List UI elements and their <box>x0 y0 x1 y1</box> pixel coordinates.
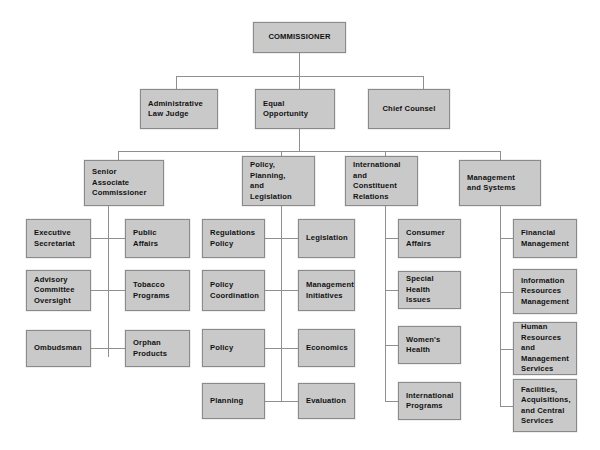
node-label: Equal Opportunity <box>263 99 331 120</box>
connector-group1-stub-right-1 <box>108 290 125 291</box>
node-label: Economics <box>306 343 351 354</box>
node-label: Management and Systems <box>467 173 537 194</box>
node-executive-secretariat[interactable]: Executive Secretariat <box>26 219 91 258</box>
connector-group3-stub-2 <box>385 345 398 346</box>
node-human-resources-and-management-services[interactable]: Human Resources and Management Services <box>513 322 577 375</box>
node-public-affairs[interactable]: Public Affairs <box>125 219 190 258</box>
node-label: Administrative Law Judge <box>148 99 214 120</box>
node-label: Policy <box>210 343 261 354</box>
connector-group1-stub-left-2 <box>91 348 109 349</box>
node-evaluation[interactable]: Evaluation <box>298 383 355 419</box>
node-international-programs[interactable]: International Programs <box>398 382 461 420</box>
node-label: Legislation <box>306 233 351 244</box>
node-label: Human Resources and Management Services <box>521 322 573 375</box>
node-consumer-affairs[interactable]: Consumer Affairs <box>398 219 461 258</box>
connector-group4-stub-3 <box>500 406 513 407</box>
connector-group4-spine <box>500 205 501 406</box>
node-label: Women's Health <box>406 335 457 356</box>
node-label: Public Affairs <box>133 228 186 249</box>
node-legislation[interactable]: Legislation <box>298 219 355 258</box>
node-label: Policy, Planning, and Legislation <box>250 160 311 202</box>
connector-group1-stub-right-0 <box>108 238 125 239</box>
node-label: Executive Secretariat <box>34 228 87 249</box>
node-label: Policy Coordination <box>210 280 261 301</box>
connector-group2-stub-left-1 <box>265 290 282 291</box>
node-label: Orphan Products <box>133 338 186 359</box>
connector-group3-spine <box>385 205 386 401</box>
node-commissioner[interactable]: COMMISSIONER <box>253 22 346 53</box>
connector-group2-stub-left-2 <box>265 348 282 349</box>
node-management-initiatives[interactable]: Management Initiatives <box>298 270 355 311</box>
node-economics[interactable]: Economics <box>298 329 355 367</box>
connector-group3-stub-0 <box>385 238 398 239</box>
node-management-and-systems[interactable]: Management and Systems <box>459 160 541 206</box>
node-label: Facilities, Acquisitions, and Central Se… <box>521 385 573 427</box>
node-label: Information Resources Management <box>521 276 573 308</box>
node-label: International Programs <box>406 391 457 412</box>
node-label: Consumer Affairs <box>406 228 457 249</box>
connector-group2-stub-left-0 <box>265 238 282 239</box>
node-international-and-constituent-relations[interactable]: International and Constituent Relations <box>345 156 418 206</box>
node-regulations-policy[interactable]: Regulations Policy <box>202 219 265 258</box>
connector-group1-spine <box>108 205 109 357</box>
node-equal-opportunity[interactable]: Equal Opportunity <box>255 89 335 129</box>
node-chief-counsel[interactable]: Chief Counsel <box>368 89 450 129</box>
node-information-resources-management[interactable]: Information Resources Management <box>513 269 577 314</box>
connector-group4-stub-0 <box>500 238 513 239</box>
connector-group2-spine <box>281 205 282 401</box>
node-label: COMMISSIONER <box>254 32 345 43</box>
connector-group3-stub-1 <box>385 290 398 291</box>
node-facilities-acquisitions-and-central-services[interactable]: Facilities, Acquisitions, and Central Se… <box>513 379 577 432</box>
connector-group1-stub-left-1 <box>91 290 109 291</box>
node-label: Advisory Committee Oversight <box>34 275 87 307</box>
org-chart: COMMISSIONER Administrative Law Judge Eq… <box>0 0 600 450</box>
node-label: Chief Counsel <box>369 104 449 115</box>
connector-commissioner-trunk <box>299 52 300 76</box>
node-policy-planning-and-legislation[interactable]: Policy, Planning, and Legislation <box>242 156 315 206</box>
node-advisory-committee-oversight[interactable]: Advisory Committee Oversight <box>26 270 91 311</box>
node-orphan-products[interactable]: Orphan Products <box>125 330 190 367</box>
connector-group2-stub-right-3 <box>281 401 298 402</box>
connector-group3-stub-3 <box>385 401 398 402</box>
node-policy[interactable]: Policy <box>202 329 265 367</box>
node-label: Tobacco Programs <box>133 280 186 301</box>
node-planning[interactable]: Planning <box>202 383 265 419</box>
node-ombudsman[interactable]: Ombudsman <box>26 330 91 367</box>
connector-group4-stub-1 <box>500 292 513 293</box>
node-label: Ombudsman <box>34 343 87 354</box>
node-label: Senior Associate Commissioner <box>92 167 160 199</box>
node-special-health-issues[interactable]: Special Health Issues <box>398 271 461 309</box>
node-label: Evaluation <box>306 396 351 407</box>
node-senior-associate-commissioner[interactable]: Senior Associate Commissioner <box>84 160 164 206</box>
node-label: Financial Management <box>521 228 573 249</box>
connector-group2-stub-left-3 <box>265 401 282 402</box>
connector-tier3-bus <box>118 151 500 152</box>
connector-group1-stub-right-2 <box>108 348 125 349</box>
node-label: Regulations Policy <box>210 228 261 249</box>
connector-group2-stub-right-1 <box>281 290 298 291</box>
node-label: Management Initiatives <box>306 280 351 301</box>
node-label: Planning <box>210 396 261 407</box>
connector-tier2-drop-0 <box>176 76 177 90</box>
connector-group2-stub-right-2 <box>281 348 298 349</box>
connector-group2-stub-right-0 <box>281 238 298 239</box>
connector-group4-stub-2 <box>500 349 513 350</box>
node-administrative-law-judge[interactable]: Administrative Law Judge <box>140 89 218 129</box>
node-womens-health[interactable]: Women's Health <box>398 326 461 364</box>
node-label: Special Health Issues <box>406 274 457 306</box>
connector-tier2-drop-2 <box>423 76 424 90</box>
node-label: International and Constituent Relations <box>353 160 414 202</box>
connector-group1-stub-left-0 <box>91 238 109 239</box>
node-policy-coordination[interactable]: Policy Coordination <box>202 270 265 311</box>
node-tobacco-programs[interactable]: Tobacco Programs <box>125 270 190 311</box>
node-financial-management[interactable]: Financial Management <box>513 219 577 258</box>
